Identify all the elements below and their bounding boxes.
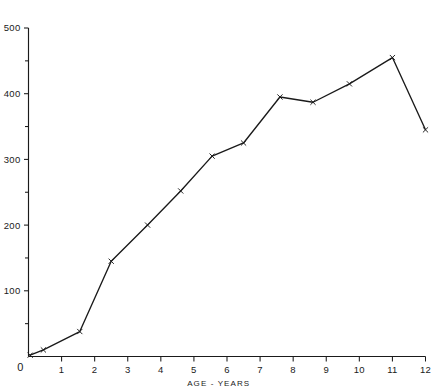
x-axis-tick-labels: 123456789101112 <box>59 364 431 375</box>
x-tick-label: 10 <box>354 364 365 375</box>
x-tick-label: 5 <box>191 364 197 375</box>
x-tick-label: 12 <box>420 364 431 375</box>
x-tick-label: 7 <box>257 364 263 375</box>
y-tick-label: 500 <box>4 22 21 33</box>
data-point-marker <box>145 223 150 228</box>
y-axis-tick-labels: 100200300400500 <box>4 22 21 296</box>
data-point-marker <box>109 259 114 264</box>
y-axis-ticks <box>24 28 29 324</box>
x-tick-label: 9 <box>323 364 329 375</box>
chart-figure: 100200300400500 123456789101112 0 AGE - … <box>0 0 446 388</box>
data-point-marker <box>423 127 428 132</box>
data-point-marker <box>77 329 82 334</box>
data-point-marker <box>210 154 215 159</box>
line-chart-canvas: 100200300400500 123456789101112 0 AGE - … <box>0 0 446 388</box>
data-point-marker <box>347 81 352 86</box>
data-point-marker <box>390 55 395 60</box>
x-axis-title: AGE - YEARS <box>187 379 250 388</box>
x-tick-label: 1 <box>59 364 65 375</box>
origin-label: 0 <box>17 361 23 373</box>
x-tick-label: 11 <box>387 364 397 375</box>
x-tick-label: 3 <box>125 364 131 375</box>
data-point-marker <box>241 140 246 145</box>
y-tick-label: 200 <box>4 220 21 231</box>
y-tick-label: 100 <box>4 285 21 296</box>
y-tick-label: 400 <box>4 88 21 99</box>
x-tick-label: 8 <box>290 364 296 375</box>
x-tick-label: 4 <box>158 364 164 375</box>
plot-area: 100200300400500 123456789101112 0 AGE - … <box>4 22 431 387</box>
x-axis-ticks <box>62 357 426 362</box>
x-tick-label: 2 <box>92 364 98 375</box>
y-tick-label: 300 <box>4 154 21 165</box>
data-point-marker <box>178 188 183 193</box>
x-tick-label: 6 <box>224 364 230 375</box>
data-series-line <box>30 58 425 356</box>
